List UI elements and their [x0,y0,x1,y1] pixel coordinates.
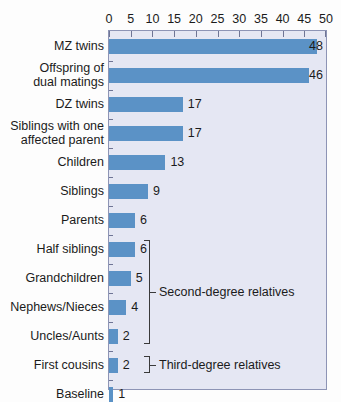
bar-value-label: 4 [131,299,138,315]
bar [109,126,183,141]
row-tick-mark [109,351,113,352]
category-label-line: Siblings with one [0,119,104,133]
row-tick-mark [109,235,113,236]
bar-value-label: 9 [153,183,160,199]
x-tick-mark [304,31,305,37]
bar-row: 46 [109,68,326,83]
row-tick-mark [109,380,113,381]
bar-row: 48 [109,39,326,54]
category-label-line: Nephews/Nieces [0,300,104,314]
category-label-line: First cousins [0,358,104,372]
bar-value-label: 2 [123,357,130,373]
x-tick-mark [261,31,262,37]
row-tick-mark [109,119,113,120]
x-tick-mark [239,31,240,37]
bar-row: 5 [109,271,326,286]
x-tick-mark [109,31,110,37]
x-tick-label: 50 [319,12,333,27]
x-tick-label: 0 [106,12,113,27]
category-label-line: Half siblings [0,242,104,256]
bar-value-label: 1 [118,386,125,402]
category-label: Offspring ofdual matings [0,61,104,89]
x-tick-mark [152,31,153,37]
category-label: Siblings with oneaffected parent [0,119,104,147]
x-tick-mark [218,31,219,37]
row-tick-mark [109,322,113,323]
category-label: First cousins [0,358,104,372]
category-label-line: affected parent [0,133,104,147]
category-label-line: Baseline [0,387,104,401]
category-label-line: Children [0,155,104,169]
category-label: Parents [0,213,104,227]
category-label: Grandchildren [0,271,104,285]
category-label-line: Parents [0,213,104,227]
x-tick-mark [131,31,132,37]
x-tick-label: 5 [127,12,134,27]
bar-value-label: 17 [188,96,202,112]
row-tick-mark [109,206,113,207]
bar [109,387,113,402]
bar [109,39,317,54]
bar [109,300,126,315]
category-label-line: DZ twins [0,97,104,111]
x-tick-label: 45 [297,12,311,27]
category-label-line: MZ twins [0,39,104,53]
x-tick-mark [196,31,197,37]
x-tick-label: 35 [254,12,268,27]
category-label: DZ twins [0,97,104,111]
bar-chart: 05101520253035404550 484617171396654221 … [0,0,341,402]
bar [109,271,131,286]
bar-row: 17 [109,126,326,141]
row-tick-mark [109,177,113,178]
bar-row: 6 [109,242,326,257]
bar [109,213,135,228]
bar-value-label: 6 [140,212,147,228]
annotation-bracket-stem [150,365,156,366]
bar [109,68,309,83]
bar-value-label: 5 [136,270,143,286]
bar [109,184,148,199]
row-tick-mark [109,293,113,294]
bar-value-label: 2 [123,328,130,344]
category-label: Half siblings [0,242,104,256]
row-tick-mark [109,90,113,91]
bar [109,97,183,112]
category-label: MZ twins [0,39,104,53]
plot-area: 484617171396654221 [108,30,327,390]
bar-row: 4 [109,300,326,315]
category-label-line: Offspring of [0,61,104,75]
bar-row: 13 [109,155,326,170]
row-tick-mark [109,148,113,149]
bar [109,155,165,170]
bar [109,242,135,257]
bar-row: 9 [109,184,326,199]
row-tick-mark [109,61,113,62]
bar [109,329,118,344]
category-label-line: Grandchildren [0,271,104,285]
category-label: Baseline [0,387,104,401]
x-tick-label: 30 [232,12,246,27]
annotation-label: Third-degree relatives [159,358,281,372]
bar-value-label: 46 [309,67,323,83]
x-tick-label: 40 [276,12,290,27]
bar-row: 17 [109,97,326,112]
category-labels: MZ twinsOffspring ofdual matingsDZ twins… [0,30,104,390]
bar-value-label: 13 [170,154,184,170]
bar-row: 2 [109,329,326,344]
annotation-label: Second-degree relatives [159,285,295,299]
category-label-line: Uncles/Aunts [0,329,104,343]
x-tick-mark [325,31,326,37]
category-label: Uncles/Aunts [0,329,104,343]
x-tick-label: 15 [167,12,181,27]
x-tick-label: 20 [189,12,203,27]
x-axis-tick-labels: 05101520253035404550 [0,12,341,28]
x-tick-mark [174,31,175,37]
x-tick-label: 25 [211,12,225,27]
category-label: Children [0,155,104,169]
category-label-line: Siblings [0,184,104,198]
category-label: Siblings [0,184,104,198]
bar [109,358,118,373]
bar-row: 1 [109,387,326,402]
category-label-line: dual matings [0,75,104,89]
annotation-bracket-stem [150,292,156,293]
